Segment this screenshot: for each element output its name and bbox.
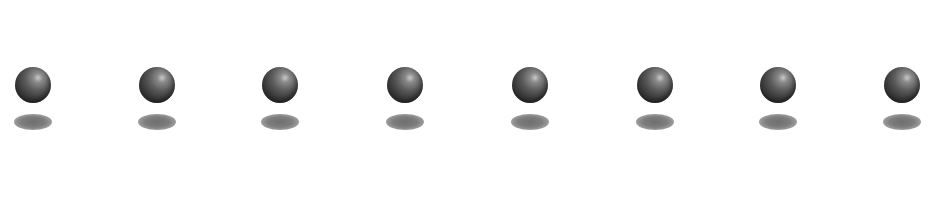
sphere-group-7 bbox=[758, 0, 798, 197]
sphere-shadow-3 bbox=[261, 114, 299, 130]
sphere-8 bbox=[884, 67, 920, 103]
sphere-shadow-2 bbox=[138, 114, 176, 130]
sphere-5 bbox=[512, 67, 548, 103]
sphere-shadow-4 bbox=[386, 114, 424, 130]
sphere-group-5 bbox=[510, 0, 550, 197]
sphere-7 bbox=[760, 67, 796, 103]
sphere-shadow-8 bbox=[883, 114, 921, 130]
sphere-2 bbox=[139, 67, 175, 103]
sphere-4 bbox=[387, 67, 423, 103]
sphere-shadow-5 bbox=[511, 114, 549, 130]
sphere-group-1 bbox=[13, 0, 53, 197]
sphere-3 bbox=[262, 67, 298, 103]
sphere-group-8 bbox=[882, 0, 922, 197]
sphere-group-3 bbox=[260, 0, 300, 197]
sphere-1 bbox=[15, 67, 51, 103]
sphere-shadow-6 bbox=[636, 114, 674, 130]
sphere-group-4 bbox=[385, 0, 425, 197]
sphere-group-6 bbox=[635, 0, 675, 197]
sphere-shadow-1 bbox=[14, 114, 52, 130]
sphere-shadow-7 bbox=[759, 114, 797, 130]
spheres-stage bbox=[0, 0, 943, 197]
sphere-6 bbox=[637, 67, 673, 103]
sphere-group-2 bbox=[137, 0, 177, 197]
